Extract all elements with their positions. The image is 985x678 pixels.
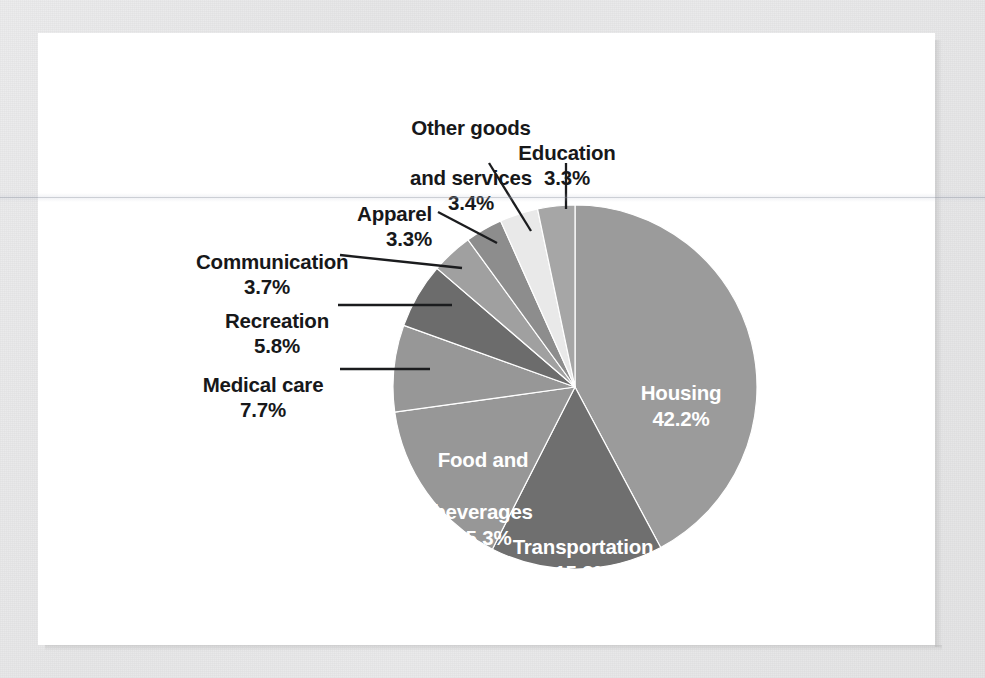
slice-label-medical-care: Medical care 7.7%	[192, 347, 334, 447]
slice-label-food-line2: beverages	[433, 500, 533, 523]
slice-value-medical-care: 7.7%	[192, 397, 334, 422]
slice-label-apparel-name: Apparel	[357, 202, 432, 225]
slice-label-medical-care-name: Medical care	[203, 373, 324, 396]
slice-label-communication-name: Communication	[196, 250, 348, 273]
scanned-figure-page: Other goods and services 3.4% Education …	[0, 0, 985, 678]
slice-label-recreation-name: Recreation	[225, 309, 329, 332]
slice-label-other-goods-line1: Other goods	[411, 116, 531, 139]
slice-value-education: 3.3%	[517, 165, 617, 190]
slice-value-housing: 42.2%	[621, 406, 741, 432]
slice-value-food-and-beverages: 15.3%	[417, 525, 549, 551]
pie-chart: Other goods and services 3.4% Education …	[0, 0, 985, 678]
scanner-artifact-line	[0, 197, 985, 198]
slice-label-food-and-beverages: Food and beverages 15.3%	[417, 421, 549, 577]
slice-label-food-line1: Food and	[438, 448, 529, 471]
slice-label-housing-name: Housing	[641, 381, 722, 404]
slice-label-education-name: Education	[518, 141, 615, 164]
slice-label-housing: Housing 42.2%	[621, 354, 741, 458]
